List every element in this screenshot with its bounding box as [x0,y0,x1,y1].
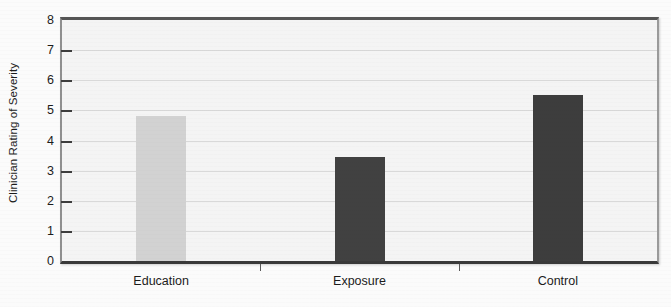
y-axis-title: Clinician Rating of Severity [0,0,26,265]
y-axis-tick-label: 4 [28,134,54,148]
bar-chart-figure: Clinician Rating of Severity 012345678 E… [0,0,671,307]
y-axis-tick-mark [61,231,72,233]
y-axis-title-text: Clinician Rating of Severity [7,62,19,202]
y-axis-tick-labels: 012345678 [28,11,54,269]
y-axis-tick-label: 8 [28,13,54,27]
y-axis-tick-mark [61,50,72,52]
y-axis-tick-label: 0 [28,254,54,268]
y-axis-tick-mark [61,201,72,203]
bar-control [533,95,583,261]
y-axis-tick-label: 5 [28,103,54,117]
y-axis-tick-mark [61,80,72,82]
y-axis-tick-mark [61,110,72,112]
bar-education [136,116,186,261]
y-axis-tick-label: 2 [28,194,54,208]
plot-inner [62,20,657,261]
y-axis-tick-label: 3 [28,164,54,178]
y-axis-tick-label: 7 [28,43,54,57]
y-axis-tick-label: 6 [28,73,54,87]
x-axis-category-label: Education [62,274,260,288]
gridline [62,80,657,81]
bar-exposure [335,157,385,261]
x-axis-category-label: Exposure [260,274,458,288]
x-axis-tick-mark [459,264,460,271]
x-axis-tick-mark [260,264,261,271]
y-axis-tick-mark [61,141,72,143]
y-axis-tick-label: 1 [28,224,54,238]
gridline [62,50,657,51]
plot-area [60,17,659,264]
y-axis-tick-mark [61,171,72,173]
x-axis-category-label: Control [459,274,657,288]
